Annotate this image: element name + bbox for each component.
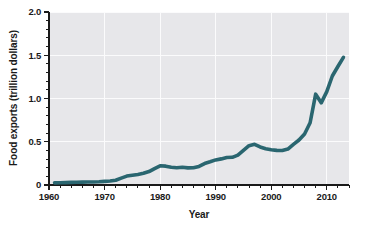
y-axis-tick-label: 1.0	[28, 93, 41, 104]
y-axis-tick-label: 0	[36, 179, 41, 190]
y-axis-tick-label: 0.5	[28, 136, 42, 147]
y-axis-title: Food exports (trillion dollars)	[8, 30, 19, 166]
x-axis-tick-label: 1990	[205, 191, 225, 202]
x-axis-tick-label: 2010	[317, 191, 337, 202]
y-axis-tick-label: 2.0	[28, 6, 41, 17]
chart-figure: 00.51.01.52.0 196019701980199020002010 Y…	[0, 0, 371, 226]
x-axis-tick-label: 1980	[150, 191, 170, 202]
food-exports-line-chart: 00.51.01.52.0 196019701980199020002010 Y…	[0, 0, 371, 226]
x-axis-tick-label: 1970	[94, 191, 114, 202]
x-axis-tick-label: 2000	[261, 191, 281, 202]
x-axis-title: Year	[189, 209, 210, 220]
x-axis-tick-label: 1960	[39, 191, 59, 202]
y-axis-tick-label: 1.5	[28, 50, 42, 61]
